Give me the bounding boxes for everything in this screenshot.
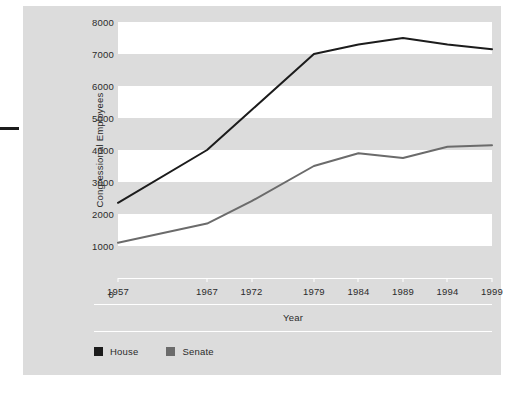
x-axis-rule bbox=[118, 278, 492, 279]
x-tick-label: 1989 bbox=[392, 286, 414, 297]
x-tick-mark bbox=[251, 278, 252, 282]
y-tick-label: 4000 bbox=[68, 145, 114, 156]
plot-area bbox=[118, 22, 492, 278]
series-line-house bbox=[118, 38, 492, 203]
chart-legend: HouseSenate bbox=[94, 346, 214, 357]
x-tick-mark bbox=[492, 278, 493, 282]
x-tick-label: 1967 bbox=[196, 286, 218, 297]
x-tick-label: 1994 bbox=[437, 286, 459, 297]
legend-label: Senate bbox=[182, 346, 213, 357]
x-axis-title: Year bbox=[94, 312, 492, 323]
y-tick-label: 8000 bbox=[68, 17, 114, 28]
y-tick-label: 2000 bbox=[68, 209, 114, 220]
legend-label: House bbox=[110, 346, 138, 357]
legend-swatch-icon bbox=[166, 347, 175, 356]
y-tick-label: 1000 bbox=[68, 241, 114, 252]
x-tick-label: 1979 bbox=[303, 286, 325, 297]
legend-separator-rule bbox=[94, 331, 492, 332]
x-tick-mark bbox=[402, 278, 403, 282]
y-tick-label: 6000 bbox=[68, 81, 114, 92]
x-axis-separator-rule bbox=[94, 304, 492, 305]
x-tick-label: 1972 bbox=[241, 286, 263, 297]
x-tick-mark bbox=[207, 278, 208, 282]
x-tick-mark bbox=[118, 278, 119, 282]
x-tick-label: 1957 bbox=[107, 286, 129, 297]
legend-item-house[interactable]: House bbox=[94, 346, 138, 357]
x-tick-mark bbox=[358, 278, 359, 282]
y-axis-title-wrapper: Congressional Employees bbox=[57, 22, 71, 278]
series-line-senate bbox=[118, 145, 492, 243]
x-tick-label: 1999 bbox=[481, 286, 503, 297]
y-tick-label: 5000 bbox=[68, 113, 114, 124]
legend-swatch-icon bbox=[94, 347, 103, 356]
page-margin-rule bbox=[0, 127, 19, 130]
x-tick-mark bbox=[313, 278, 314, 282]
y-tick-label: 3000 bbox=[68, 177, 114, 188]
x-tick-label: 1984 bbox=[347, 286, 369, 297]
legend-item-senate[interactable]: Senate bbox=[166, 346, 213, 357]
x-tick-mark bbox=[447, 278, 448, 282]
y-tick-label: 7000 bbox=[68, 49, 114, 60]
data-lines bbox=[118, 22, 492, 278]
figure: 010002000300040005000600070008000 Congre… bbox=[0, 0, 532, 393]
y-axis-title: Congressional Employees bbox=[94, 60, 105, 240]
chart-panel: 010002000300040005000600070008000 Congre… bbox=[23, 6, 501, 375]
